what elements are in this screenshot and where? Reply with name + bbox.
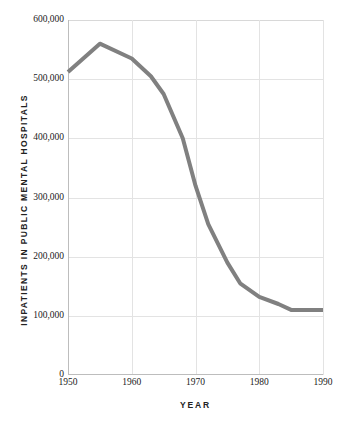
x-axis-tick-label: 1960 xyxy=(112,377,152,387)
y-axis-tick-label: 400,000 xyxy=(4,132,64,142)
y-axis-tick-label: 200,000 xyxy=(4,251,64,261)
x-axis-title: YEAR xyxy=(68,400,323,410)
gridline-vertical xyxy=(323,20,324,375)
chart-figure: INPATIENTS IN PUBLIC MENTAL HOSPITALS 01… xyxy=(0,0,346,425)
plot-area xyxy=(68,20,323,375)
y-axis-tick-label: 500,000 xyxy=(4,73,64,83)
x-axis-tick-label: 1980 xyxy=(239,377,279,387)
series-line-layer xyxy=(68,20,323,375)
y-axis-tick-label: 300,000 xyxy=(4,192,64,202)
y-axis-tick-labels: 0100,000200,000300,000400,000500,000600,… xyxy=(2,20,64,375)
series-line-inpatients xyxy=(68,44,323,310)
y-axis-tick-label: 100,000 xyxy=(4,310,64,320)
x-axis-tick-label: 1950 xyxy=(48,377,88,387)
y-axis-tick-label: 600,000 xyxy=(4,14,64,24)
x-axis-tick-label: 1990 xyxy=(303,377,343,387)
x-axis-tick-labels: 19501960197019801990 xyxy=(68,377,330,391)
x-axis-tick-label: 1970 xyxy=(176,377,216,387)
